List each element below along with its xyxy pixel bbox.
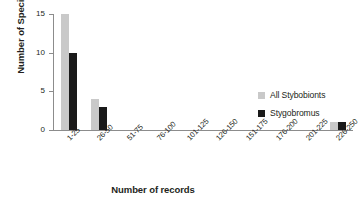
legend-label: All Stybobionts: [270, 90, 325, 100]
y-tick-label: 5: [25, 87, 45, 95]
y-tick-mark: [49, 53, 53, 54]
bar: [69, 53, 77, 130]
bar: [61, 14, 69, 130]
y-tick-mark: [49, 14, 53, 15]
y-tick-label: 10: [25, 49, 45, 57]
legend-swatch-icon: [258, 110, 265, 117]
legend-item: All Stybobionts: [258, 88, 325, 102]
legend-swatch-icon: [258, 92, 265, 99]
bar-chart-figure: Number of Species 051015 1-2526-5051-757…: [0, 0, 359, 205]
bar-group: [330, 14, 346, 130]
bar-group: [61, 14, 77, 130]
bar-group: [121, 14, 137, 130]
bar-group: [211, 14, 227, 130]
chart-legend: All StybobiontsStygobromus: [258, 88, 325, 124]
bar-group: [181, 14, 197, 130]
legend-item: Stygobromus: [258, 106, 325, 120]
bar: [91, 99, 99, 130]
y-axis-title: Number of Species: [15, 0, 26, 88]
bar-group: [241, 14, 257, 130]
bar-group: [151, 14, 167, 130]
y-tick-mark: [49, 91, 53, 92]
x-axis-title: Number of records: [53, 184, 253, 195]
y-tick-label: 15: [25, 10, 45, 18]
y-tick-mark: [49, 130, 53, 131]
legend-label: Stygobromus: [270, 108, 320, 118]
bar: [330, 122, 338, 130]
bar-group: [91, 14, 107, 130]
y-tick-label: 0: [25, 126, 45, 134]
